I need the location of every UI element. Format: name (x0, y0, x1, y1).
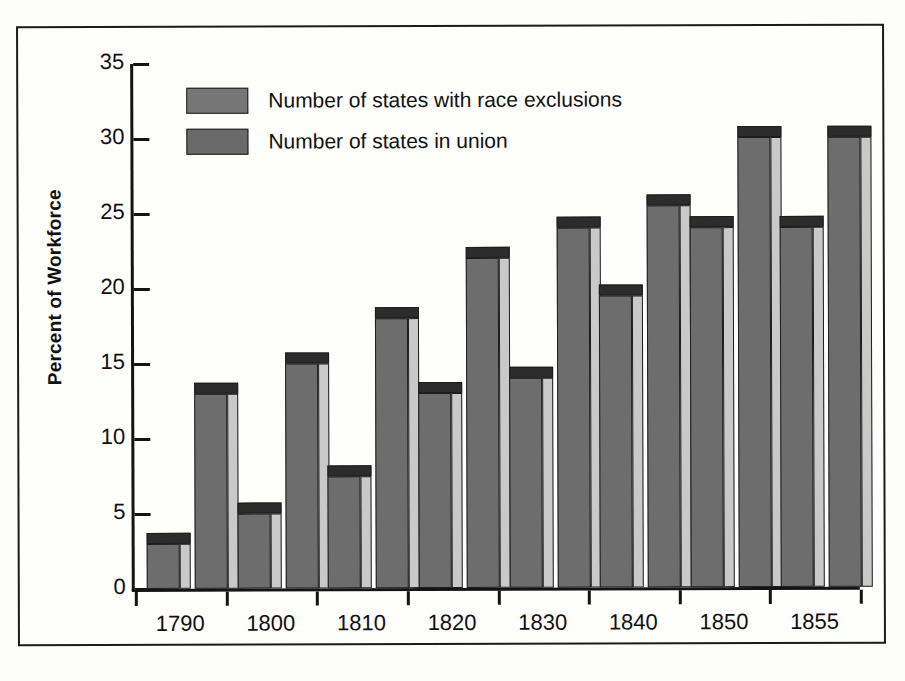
y-tick-label: 35 (78, 49, 124, 75)
bar-top-face (147, 533, 191, 544)
bar-front-face (147, 544, 180, 589)
bar-top-face (647, 194, 691, 205)
bar-side-face (542, 378, 554, 588)
bar-top-face (509, 367, 553, 378)
y-tick-mark (135, 513, 151, 516)
bar-top-face (418, 382, 462, 393)
bar-1850-series2 (737, 126, 782, 587)
x-tick-mark (588, 591, 591, 605)
bar-top-face (737, 126, 781, 137)
x-tick-container: 17901800181018201830184018501855 (16, 24, 884, 27)
legend-swatch (186, 88, 248, 114)
bar-1790-series2 (194, 383, 239, 589)
legend-label: Number of states with race exclusions (268, 87, 622, 112)
bar-top-face (375, 307, 419, 318)
bar-1810-series2 (375, 307, 420, 588)
bar-1850-series1 (689, 216, 734, 587)
bar-front-face (828, 137, 862, 587)
bar-top-face (328, 465, 372, 476)
bar-top-face (828, 126, 872, 137)
y-tick-mark (134, 363, 150, 366)
bar-front-face (237, 514, 270, 589)
bar-front-face (509, 378, 543, 588)
bar-top-face (599, 284, 643, 295)
bar-1790-series1 (147, 533, 191, 589)
bar-side-face (632, 295, 644, 588)
x-tick-mark (225, 592, 228, 606)
bar-1840-series1 (599, 284, 644, 588)
bar-side-face (861, 137, 873, 587)
y-tick-mark (134, 213, 150, 216)
bar-top-face (237, 503, 281, 514)
bar-front-face (689, 227, 723, 587)
bar-front-face (556, 228, 590, 588)
y-tick-mark (134, 288, 150, 291)
bar-front-face (194, 394, 228, 589)
bar-front-face (418, 393, 452, 588)
bar-chart-figure: Percent of Workforce 05101520253035 1790… (16, 24, 886, 647)
y-tick-label: 5 (80, 499, 126, 525)
y-tick-mark (133, 138, 149, 141)
x-tick-mark (316, 591, 319, 605)
legend-label: Number of states in union (268, 129, 507, 154)
bar-1855-series1 (780, 216, 825, 587)
bar-front-face (737, 137, 771, 587)
bar-1830-series1 (509, 367, 554, 588)
bar-side-face (180, 544, 191, 589)
x-tick-mark (135, 592, 138, 606)
bar-front-face (466, 258, 500, 588)
legend-item: Number of states with race exclusions (186, 86, 622, 113)
x-tick-label: 1855 (760, 609, 870, 635)
bar-side-face (270, 514, 281, 589)
bar-1855-series2 (828, 126, 873, 587)
chart-legend: Number of states with race exclusionsNum… (186, 86, 622, 169)
bar-side-face (361, 476, 372, 589)
y-tick-mark (133, 63, 149, 66)
bar-front-face (328, 476, 361, 589)
y-tick-label: 20 (79, 274, 125, 300)
y-tick-label: 15 (79, 349, 125, 375)
x-tick-mark (407, 591, 410, 605)
x-tick-mark (497, 591, 500, 605)
x-tick-mark (860, 590, 863, 604)
legend-item: Number of states in union (186, 127, 622, 154)
bar-1820-series1 (418, 382, 463, 588)
legend-swatch (186, 129, 248, 155)
bar-top-face (194, 383, 238, 394)
bars-container (16, 24, 884, 27)
bar-front-face (780, 227, 814, 587)
y-tick-label: 10 (79, 424, 125, 450)
plot-area: Percent of Workforce 05101520253035 1790… (16, 24, 886, 647)
bar-front-face (285, 363, 319, 588)
bar-side-face (813, 227, 825, 587)
x-tick-mark (679, 590, 682, 604)
y-tick-label: 30 (78, 124, 124, 150)
bar-1800-series1 (237, 503, 281, 589)
bar-side-face (722, 227, 734, 587)
bar-1800-series2 (285, 352, 330, 588)
bar-top-face (689, 216, 733, 227)
bar-top-face (556, 217, 600, 228)
bar-1830-series2 (556, 217, 601, 588)
bar-side-face (451, 393, 463, 588)
y-tick-container: 05101520253035 (16, 24, 884, 27)
bar-top-face (285, 352, 329, 363)
bar-1840-series2 (647, 194, 692, 588)
bar-1810-series1 (328, 465, 372, 589)
y-tick-mark (134, 438, 150, 441)
y-axis-title: Percent of Workforce (44, 177, 67, 397)
bar-1820-series2 (466, 247, 511, 588)
bar-front-face (599, 295, 633, 588)
bar-front-face (647, 205, 681, 588)
bar-front-face (375, 318, 409, 588)
y-axis-line (130, 64, 135, 591)
bar-top-face (780, 216, 824, 227)
y-tick-label: 25 (79, 199, 125, 225)
x-tick-mark (769, 590, 772, 604)
bar-top-face (466, 247, 510, 258)
y-tick-label: 0 (80, 574, 126, 600)
